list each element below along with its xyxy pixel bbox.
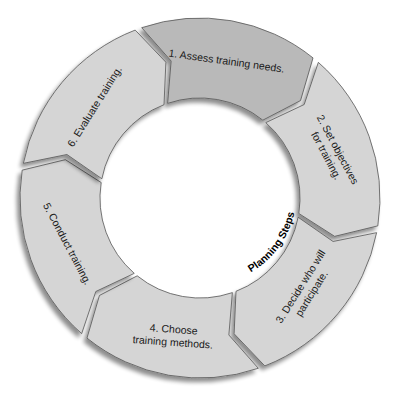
cycle-step-3: 3. Decide who willparticipate. bbox=[234, 217, 377, 366]
planning-steps-cycle-diagram: 1. Assess training needs.2. Set objectiv… bbox=[0, 0, 398, 393]
cycle-step-6: 6. Evaluate training. bbox=[23, 30, 166, 179]
cycle-step-1: 1. Assess training needs. bbox=[142, 18, 313, 120]
cycle-step-4: 4. Choosetraining methods. bbox=[87, 276, 258, 378]
cycle-segments: 1. Assess training needs.2. Set objectiv… bbox=[20, 18, 380, 378]
segment-shape bbox=[142, 18, 313, 120]
